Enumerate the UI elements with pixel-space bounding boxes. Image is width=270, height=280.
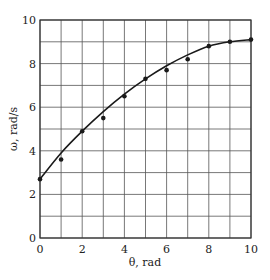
y-tick-label: 2 <box>29 188 36 201</box>
y-axis-label: ω, rad/s <box>7 107 20 152</box>
data-point <box>185 57 190 62</box>
data-point <box>101 116 106 121</box>
data-point <box>207 44 212 49</box>
data-point <box>249 37 254 42</box>
grid-lines <box>40 20 251 238</box>
y-tick-label: 6 <box>29 101 36 114</box>
x-tick-labels: 0246810 <box>37 243 259 256</box>
data-point <box>143 77 148 82</box>
x-tick-label: 4 <box>121 243 128 256</box>
y-tick-label: 8 <box>29 58 36 71</box>
x-tick-label: 8 <box>205 243 212 256</box>
y-tick-label: 0 <box>29 232 36 245</box>
y-tick-labels: 0246810 <box>22 14 36 245</box>
x-axis-label: θ, rad <box>129 256 161 269</box>
x-tick-label: 10 <box>244 243 258 256</box>
data-point <box>38 177 43 182</box>
y-tick-label: 4 <box>29 145 36 158</box>
y-tick-label: 10 <box>22 14 36 27</box>
x-tick-label: 6 <box>163 243 170 256</box>
x-tick-label: 2 <box>79 243 86 256</box>
data-point <box>164 68 169 73</box>
x-tick-label: 0 <box>37 243 44 256</box>
data-point <box>59 157 64 162</box>
data-point <box>80 129 85 134</box>
data-point <box>122 94 127 99</box>
chart: 0246810 0246810 θ, rad ω, rad/s <box>0 0 270 280</box>
data-point <box>228 40 233 45</box>
